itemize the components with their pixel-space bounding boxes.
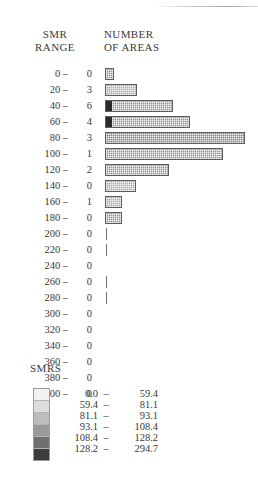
- legend-row: 108.4–128.2: [56, 432, 206, 443]
- histogram-row: 80 –3: [0, 130, 258, 146]
- row-range-label: 300 –: [16, 306, 68, 322]
- row-count-value: 0: [74, 322, 92, 338]
- histogram-row: 60 –4: [0, 114, 258, 130]
- histogram-row: 20 –3: [0, 82, 258, 98]
- row-count-value: 2: [74, 162, 92, 178]
- legend-high-value: 81.1: [114, 399, 158, 410]
- legend-high-value: 294.7: [114, 443, 158, 454]
- row-range-label: 180 –: [16, 210, 68, 226]
- legend-dash: –: [98, 388, 114, 399]
- legend-low-value: 81.1: [56, 410, 98, 421]
- legend-low-value: 108.4: [56, 432, 98, 443]
- row-count-value: 3: [74, 82, 92, 98]
- legend-high-value: 59.4: [114, 388, 158, 399]
- row-tick-mark: [106, 292, 107, 304]
- row-range-label: 60 –: [16, 114, 68, 130]
- legend-row: 128.2–294.7: [56, 443, 206, 454]
- legend-high-value: 108.4: [114, 421, 158, 432]
- legend-dash: –: [98, 432, 114, 443]
- row-bar-container: [105, 116, 190, 128]
- histogram-row: 40 –6: [0, 98, 258, 114]
- row-count-value: 0: [74, 210, 92, 226]
- histogram-row: 140 –0: [0, 178, 258, 194]
- row-range-label: 320 –: [16, 322, 68, 338]
- row-count-value: 0: [74, 338, 92, 354]
- row-range-label: 200 –: [16, 226, 68, 242]
- row-count-value: 0: [74, 274, 92, 290]
- row-count-value: 3: [74, 130, 92, 146]
- row-bar: [105, 100, 173, 112]
- legend-swatch-strip: [33, 388, 50, 461]
- histogram-row: 160 –1: [0, 194, 258, 210]
- header-range: RANGE: [24, 41, 86, 54]
- row-count-value: 4: [74, 114, 92, 130]
- row-range-label: 280 –: [16, 290, 68, 306]
- row-count-value: 1: [74, 146, 92, 162]
- row-bar-container: [105, 180, 136, 192]
- smr-histogram-figure: SMR RANGE NUMBER OF AREAS 0 –020 –340 –6…: [0, 0, 258, 481]
- legend-swatch: [34, 413, 49, 425]
- row-bar: [105, 132, 245, 144]
- legend-dash: –: [98, 399, 114, 410]
- row-count-value: 0: [74, 370, 92, 386]
- row-bar: [105, 180, 136, 192]
- histogram-row: 0 –0: [0, 66, 258, 82]
- row-count-value: 0: [74, 226, 92, 242]
- histogram-row: 320 –0: [0, 322, 258, 338]
- row-range-label: 100 –: [16, 146, 68, 162]
- row-bar: [105, 148, 223, 160]
- row-range-label: 0 –: [16, 66, 68, 82]
- header-smr: SMR: [24, 28, 86, 41]
- legend-title: SMRS: [30, 362, 61, 374]
- row-bar-container: [105, 148, 223, 160]
- legend-row: 0.0–59.4: [56, 388, 206, 399]
- legend-swatch: [34, 389, 49, 401]
- row-tick-mark: [106, 228, 107, 240]
- histogram-row: 100 –1: [0, 146, 258, 162]
- column-header-smr-range: SMR RANGE: [24, 28, 86, 54]
- row-bar-container: [105, 196, 122, 208]
- histogram-row: 280 –0: [0, 290, 258, 306]
- row-bar: [105, 164, 169, 176]
- row-range-label: 40 –: [16, 98, 68, 114]
- histogram-rows: 0 –020 –340 –660 –480 –3100 –1120 –2140 …: [0, 66, 258, 402]
- row-bar: [105, 196, 122, 208]
- header-number: NUMBER: [104, 28, 200, 41]
- legend-swatch: [34, 401, 49, 413]
- row-count-value: 0: [74, 242, 92, 258]
- row-bar: [105, 212, 122, 224]
- row-range-label: 260 –: [16, 274, 68, 290]
- row-range-label: 120 –: [16, 162, 68, 178]
- histogram-row: 200 –0: [0, 226, 258, 242]
- row-count-value: 0: [74, 306, 92, 322]
- legend-high-value: 128.2: [114, 432, 158, 443]
- header-of-areas: OF AREAS: [104, 41, 200, 54]
- row-range-label: 140 –: [16, 178, 68, 194]
- row-count-value: 0: [74, 354, 92, 370]
- histogram-row: 300 –0: [0, 306, 258, 322]
- row-count-value: 1: [74, 194, 92, 210]
- row-bar-container: [105, 84, 137, 96]
- row-range-label: 340 –: [16, 338, 68, 354]
- legend-high-value: 93.1: [114, 410, 158, 421]
- legend-low-value: 93.1: [56, 421, 98, 432]
- top-rule: [152, 6, 258, 7]
- row-range-label: 20 –: [16, 82, 68, 98]
- row-range-label: 80 –: [16, 130, 68, 146]
- row-range-label: 240 –: [16, 258, 68, 274]
- histogram-row: 220 –0: [0, 242, 258, 258]
- legend-dash: –: [98, 410, 114, 421]
- row-bar-container: [105, 212, 122, 224]
- row-count-value: 0: [74, 66, 92, 82]
- legend-low-value: 0.0: [56, 388, 98, 399]
- column-header-number-of-areas: NUMBER OF AREAS: [104, 28, 200, 54]
- row-bar-container: [105, 68, 114, 80]
- row-bar-container: [105, 132, 245, 144]
- legend-dash: –: [98, 421, 114, 432]
- row-bar: [105, 84, 137, 96]
- row-range-label: 220 –: [16, 242, 68, 258]
- row-tick-mark: [106, 244, 107, 256]
- legend-swatch: [34, 425, 49, 437]
- legend-low-value: 128.2: [56, 443, 98, 454]
- row-range-label: 160 –: [16, 194, 68, 210]
